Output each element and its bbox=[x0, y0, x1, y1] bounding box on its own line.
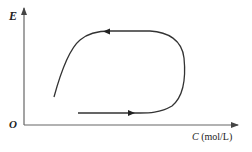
x-axis-var: C bbox=[192, 131, 199, 142]
arrow-left-icon bbox=[103, 29, 110, 35]
origin-label: O bbox=[9, 118, 17, 130]
x-axis-label: C (mol/L) bbox=[192, 131, 232, 142]
arrow-right-icon bbox=[128, 110, 135, 116]
y-axis-label: E bbox=[9, 9, 17, 24]
cycle-curve bbox=[54, 31, 185, 113]
x-axis-unit: (mol/L) bbox=[199, 131, 233, 142]
diagram-canvas bbox=[0, 0, 252, 152]
